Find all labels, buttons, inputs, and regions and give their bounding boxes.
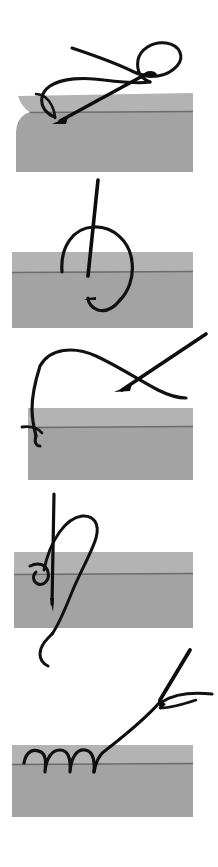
panel-1-tissue-lower	[16, 112, 193, 172]
panel-3-wound-line	[28, 427, 193, 428]
panel-5-wound-line	[12, 764, 193, 765]
suture-technique-figure: Needle enters tissue at an oblique angle…	[0, 0, 218, 867]
panel-2-tissue-lower	[12, 272, 193, 328]
panel-4-wound-line	[14, 574, 193, 575]
suture-illustration-svg	[0, 0, 218, 867]
panel-3-tissue-lower	[28, 427, 193, 480]
panel-3-tissue-upper	[28, 408, 193, 428]
panel-4-needle-shaft	[52, 494, 54, 604]
panel-2-wound-line	[12, 272, 193, 273]
panel-2-tissue-upper	[12, 252, 193, 273]
panel-5-tissue-lower	[12, 764, 193, 817]
panel-4-tissue-lower	[14, 574, 193, 628]
